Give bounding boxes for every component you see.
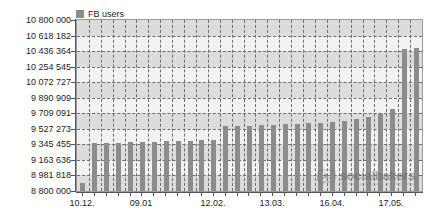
x-axis-tick-label: 10.12. [69, 199, 94, 208]
bar [366, 117, 371, 191]
x-axis-tick [165, 192, 166, 196]
x-axis-tick-label: 12.02. [200, 199, 225, 208]
bar [306, 123, 311, 191]
y-axis-tick [71, 113, 75, 114]
bar [318, 123, 323, 191]
bar [223, 126, 228, 191]
x-axis-tick [320, 192, 321, 196]
x-axis-tick-label: 17.05. [378, 199, 403, 208]
vertical-gridline [374, 20, 375, 191]
horizontal-gridline [77, 51, 422, 52]
vertical-gridline [148, 20, 149, 191]
y-axis-tick [71, 20, 75, 21]
y-axis-tick-label: 9 345 455 [31, 140, 71, 149]
vertical-gridline [184, 20, 185, 191]
bar-chart: FB users 8 800 0008 981 8189 163 6369 34… [0, 0, 432, 224]
bar [247, 126, 252, 191]
vertical-gridline [113, 20, 114, 191]
vertical-gridline [172, 20, 173, 191]
vertical-gridline [303, 20, 304, 191]
bar [390, 109, 395, 191]
horizontal-gridline [77, 98, 422, 99]
x-axis-tick [201, 192, 202, 196]
horizontal-gridline [77, 36, 422, 37]
bar [80, 183, 85, 191]
x-axis-tick [308, 192, 309, 196]
y-axis-tick-label: 9 890 909 [31, 93, 71, 102]
x-axis-tick [213, 192, 214, 196]
legend-swatch-fb-users [76, 10, 84, 18]
vertical-gridline [351, 20, 352, 191]
x-axis-tick [403, 192, 404, 196]
x-axis-tick [415, 192, 416, 196]
bar [271, 125, 276, 191]
y-axis-tick-label: 10 254 545 [26, 62, 71, 71]
x-axis-tick-label: 09.01 [130, 199, 153, 208]
x-axis-tick [141, 192, 142, 196]
bar [402, 49, 407, 191]
x-axis-tick [153, 192, 154, 196]
y-axis-tick-label: 8 800 000 [31, 187, 71, 196]
y-axis-tick-label: 10 436 364 [26, 47, 71, 56]
vertical-gridline [279, 20, 280, 191]
bar [235, 126, 240, 191]
vertical-gridline [398, 20, 399, 191]
legend-label-fb-users: FB users [88, 10, 124, 19]
vertical-gridline [196, 20, 197, 191]
x-axis-line [76, 192, 423, 193]
plot-band [77, 51, 422, 67]
vertical-gridline [101, 20, 102, 191]
horizontal-gridline [77, 67, 422, 68]
x-axis-tick [94, 192, 95, 196]
y-axis-tick-label: 9 163 636 [31, 155, 71, 164]
y-axis-tick [71, 67, 75, 68]
x-axis-tick [379, 192, 380, 196]
y-axis-tick [71, 175, 75, 176]
x-axis-tick [260, 192, 261, 196]
x-axis-tick [189, 192, 190, 196]
y-axis-tick-label: 9 709 091 [31, 109, 71, 118]
x-axis-tick [344, 192, 345, 196]
vertical-gridline [363, 20, 364, 191]
y-axis-tick [71, 144, 75, 145]
x-axis-tick [106, 192, 107, 196]
x-axis-tick [225, 192, 226, 196]
vertical-gridline [267, 20, 268, 191]
y-axis-tick [71, 160, 75, 161]
bar [199, 140, 204, 191]
plot-band [77, 20, 422, 36]
horizontal-gridline [77, 82, 422, 83]
vertical-gridline [255, 20, 256, 191]
bar [378, 114, 383, 191]
x-axis-tick [284, 192, 285, 196]
bar [211, 140, 216, 191]
bar [128, 142, 133, 191]
y-axis-tick [71, 36, 75, 37]
chart-legend: FB users [76, 8, 124, 20]
bar [330, 122, 335, 191]
vertical-gridline [244, 20, 245, 191]
y-axis-tick [71, 51, 75, 52]
x-axis-tick [296, 192, 297, 196]
y-axis-tick [71, 98, 75, 99]
vertical-gridline [315, 20, 316, 191]
bar [354, 119, 359, 191]
x-axis-tick [82, 192, 83, 196]
x-axis-tick [248, 192, 249, 196]
x-axis-tick [118, 192, 119, 196]
x-axis-tick [272, 192, 273, 196]
bar [176, 141, 181, 191]
bar [295, 124, 300, 191]
vertical-gridline [220, 20, 221, 191]
vertical-gridline [339, 20, 340, 191]
vertical-gridline [125, 20, 126, 191]
vertical-gridline [291, 20, 292, 191]
bar [152, 142, 157, 191]
y-axis-tick [71, 82, 75, 83]
y-axis-tick [71, 191, 75, 192]
bar [188, 141, 193, 191]
y-axis-tick-label: 9 527 273 [31, 124, 71, 133]
x-axis-tick [130, 192, 131, 196]
y-axis-labels: 8 800 0008 981 8189 163 6369 345 4559 52… [0, 19, 71, 192]
bar [104, 143, 109, 191]
